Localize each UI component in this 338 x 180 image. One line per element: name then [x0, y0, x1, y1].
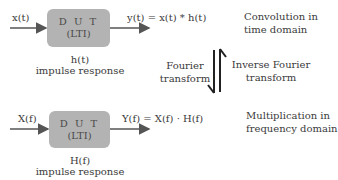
dut-box-title: D U T [60, 118, 99, 130]
dut-box-title: D U T [59, 16, 98, 28]
input-label-time: x(t) [12, 12, 29, 23]
inverse-transform-line1: Inverse Fourier [226, 59, 316, 70]
response-label-time: impulse response [30, 65, 130, 76]
output-label-time: y(t) = x(t) * h(t) [127, 12, 206, 23]
input-label-freq: X(f) [18, 113, 37, 124]
dut-box-freq: D U T (LTI) [49, 111, 110, 148]
description-time-line2: time domain [244, 24, 307, 35]
dut-box-subtitle: (LTI) [67, 130, 91, 142]
description-freq-line1: Multiplication in [246, 110, 330, 121]
fourier-transform-line1: Fourier [160, 60, 210, 71]
inverse-transform-line2: transform [226, 72, 316, 83]
response-symbol-freq: H(f) [40, 155, 120, 166]
response-symbol-time: h(t) [40, 54, 120, 65]
response-label-freq: impulse response [30, 166, 130, 177]
description-time-line1: Convolution in [244, 11, 318, 22]
inverse-fourier-transform-arrow-icon [220, 49, 226, 92]
output-label-freq: Y(f) = X(f) · H(f) [122, 113, 203, 124]
dut-box-subtitle: (LTI) [66, 28, 90, 40]
dut-box-time: D U T (LTI) [47, 9, 110, 47]
fourier-transform-line2: transform [155, 73, 215, 84]
fourier-transform-arrow-icon [208, 50, 214, 93]
description-freq-line2: frequency domain [246, 123, 338, 134]
